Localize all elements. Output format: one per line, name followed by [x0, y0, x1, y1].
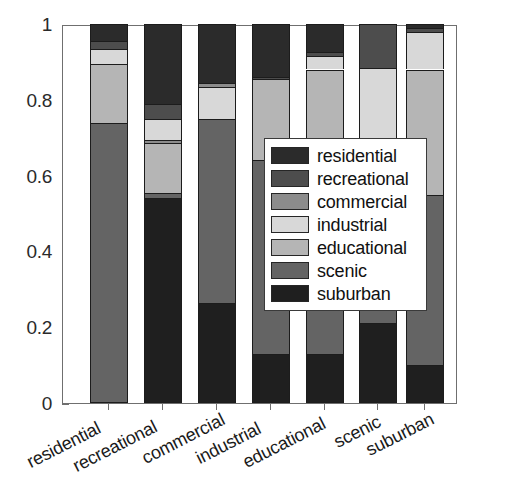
- bar-segment-residential[interactable]: [90, 24, 128, 41]
- x-axis-tick-mark: [108, 404, 109, 410]
- legend-item-residential[interactable]: residential: [271, 144, 421, 167]
- bar-segment-suburban[interactable]: [252, 354, 290, 403]
- bar-segment-recreational[interactable]: [90, 41, 128, 49]
- bar-segment-suburban[interactable]: [306, 354, 344, 403]
- bar-segment-educational[interactable]: [90, 64, 128, 123]
- legend-swatch-suburban: [271, 285, 309, 302]
- legend-label: educational: [317, 239, 407, 257]
- legend-label: commercial: [317, 193, 407, 211]
- bar-segment-educational[interactable]: [144, 143, 182, 192]
- y-axis-tick-label: 0.4: [26, 242, 52, 261]
- legend-label: recreational: [317, 170, 409, 188]
- bar-segment-scenic[interactable]: [90, 123, 128, 403]
- y-axis-tick-label: 0.6: [26, 167, 52, 186]
- bar-segment-scenic[interactable]: [144, 193, 182, 199]
- bar-segment-commercial[interactable]: [198, 83, 236, 87]
- figure-canvas: 00.20.40.60.81 residentialrecreationalco…: [0, 0, 507, 479]
- legend-item-commercial[interactable]: commercial: [271, 190, 421, 213]
- bar-segment-suburban[interactable]: [144, 198, 182, 403]
- x-axis-tick-mark: [377, 404, 378, 410]
- legend-item-recreational[interactable]: recreational: [271, 167, 421, 190]
- legend-item-educational[interactable]: educational: [271, 236, 421, 259]
- bar-segment-suburban[interactable]: [406, 365, 444, 403]
- y-axis-tick-label: 0.2: [26, 318, 52, 337]
- legend-swatch-residential: [271, 147, 309, 164]
- bar-recreational[interactable]: [144, 24, 182, 403]
- bar-segment-suburban[interactable]: [198, 303, 236, 403]
- x-axis-tick-mark: [324, 404, 325, 410]
- legend-swatch-educational: [271, 239, 309, 256]
- bar-residential[interactable]: [90, 24, 128, 403]
- bar-segment-industrial[interactable]: [90, 49, 128, 64]
- legend-swatch-recreational: [271, 170, 309, 187]
- legend-item-scenic[interactable]: scenic: [271, 259, 421, 282]
- bar-segment-recreational[interactable]: [359, 24, 397, 68]
- legend-label: residential: [317, 147, 397, 165]
- bar-segment-recreational[interactable]: [306, 52, 344, 56]
- bar-segment-recreational[interactable]: [406, 28, 444, 32]
- x-axis-tick-mark: [162, 404, 163, 410]
- legend-swatch-industrial: [271, 216, 309, 233]
- y-axis-tick-label: 0: [42, 394, 52, 413]
- legend-label: industrial: [317, 216, 387, 234]
- bar-segment-residential[interactable]: [406, 24, 444, 28]
- y-axis-tick-mark: [62, 404, 69, 405]
- bar-segment-industrial[interactable]: [406, 32, 444, 70]
- bar-segment-industrial[interactable]: [144, 119, 182, 140]
- y-axis-tick-label: 0.8: [26, 91, 52, 110]
- legend: residentialrecreationalcommercialindustr…: [264, 138, 427, 311]
- legend-swatch-commercial: [271, 193, 309, 210]
- bar-segment-suburban[interactable]: [359, 323, 397, 403]
- bar-segment-residential[interactable]: [306, 24, 344, 52]
- bar-segment-residential[interactable]: [252, 24, 290, 77]
- bar-segment-residential[interactable]: [198, 24, 236, 83]
- bar-commercial[interactable]: [198, 24, 236, 403]
- legend-item-suburban[interactable]: suburban: [271, 282, 421, 305]
- x-axis-tick-mark: [270, 404, 271, 410]
- legend-item-industrial[interactable]: industrial: [271, 213, 421, 236]
- legend-swatch-scenic: [271, 262, 309, 279]
- bar-segment-industrial[interactable]: [198, 87, 236, 119]
- bar-segment-scenic[interactable]: [198, 119, 236, 303]
- bar-segment-recreational[interactable]: [252, 77, 290, 79]
- bar-segment-residential[interactable]: [144, 24, 182, 104]
- bar-segment-industrial[interactable]: [306, 56, 344, 69]
- y-axis-tick-label: 1: [42, 15, 52, 34]
- bar-segment-commercial[interactable]: [144, 140, 182, 144]
- bar-segment-recreational[interactable]: [144, 104, 182, 119]
- legend-label: scenic: [317, 262, 367, 280]
- legend-label: suburban: [317, 285, 390, 303]
- bar-segment-industrial[interactable]: [359, 68, 397, 149]
